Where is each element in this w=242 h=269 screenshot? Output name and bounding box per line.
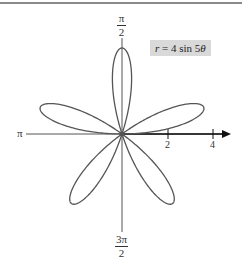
label-pi-over-2: π 2: [117, 13, 126, 38]
label-pi: π: [17, 127, 23, 139]
equation-label: r = 4 sin 5θ: [150, 40, 211, 56]
den: 2: [119, 248, 125, 259]
eq-theta: θ: [200, 42, 205, 54]
tick-label-2: 2: [165, 139, 170, 150]
tick-label-4: 4: [210, 139, 215, 150]
axis-arrow-icon: [222, 130, 231, 138]
label-3pi-over-2: 3π 2: [115, 234, 128, 259]
num: 3π: [116, 234, 127, 245]
num: π: [119, 13, 125, 24]
eq-rest: = 4 sin 5: [159, 42, 200, 54]
den: 2: [119, 27, 125, 38]
